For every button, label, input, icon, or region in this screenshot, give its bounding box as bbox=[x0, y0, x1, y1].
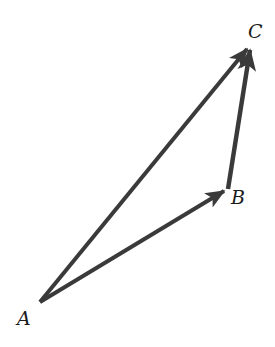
vector-triangle-graphic bbox=[0, 0, 275, 347]
vector-a-to-b bbox=[40, 191, 224, 302]
point-label-b: B bbox=[231, 188, 245, 207]
point-label-c: C bbox=[248, 22, 263, 41]
vector-diagram: A B C bbox=[0, 0, 275, 347]
point-label-a: A bbox=[17, 309, 31, 328]
vector-a-to-c bbox=[40, 49, 247, 302]
